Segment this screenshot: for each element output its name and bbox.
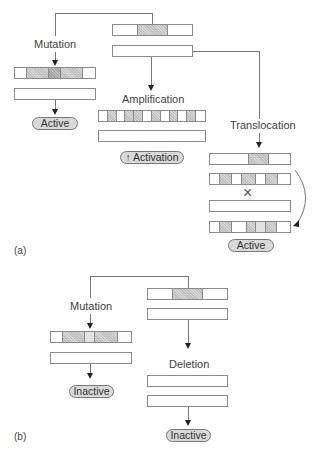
panel-b-label: (b) (14, 431, 26, 442)
source-chromosome-top (112, 24, 193, 36)
arrow-down-icon (52, 109, 58, 115)
connector-line (90, 276, 91, 298)
source-chromosome-bottom (147, 308, 228, 320)
amplified-chromosome (98, 110, 206, 122)
arrow-down-icon (185, 343, 191, 349)
result-activation-badge: ↑ Activation (120, 151, 184, 164)
curved-arrow-icon (293, 168, 313, 228)
source-chromosome-top (147, 288, 228, 300)
result-inactive-badge: Inactive (69, 385, 114, 398)
arrow-line (188, 320, 189, 343)
panel-a-label: (a) (14, 245, 26, 256)
result-active-badge: Active (32, 117, 78, 130)
connector-line (55, 13, 56, 36)
mutation-label: Mutation (70, 300, 112, 312)
deletion-label: Deletion (169, 358, 209, 370)
source-chromosome-bottom (112, 45, 193, 57)
arrow-down-icon (148, 85, 154, 91)
mutated-chromosome (14, 67, 96, 79)
translocation-label: Translocation (230, 119, 296, 131)
arrow-line (259, 133, 260, 142)
normal-chromosome (98, 130, 206, 142)
arrow-down-icon (87, 373, 93, 379)
deleted-chromosome (147, 375, 228, 387)
arrow-down-icon (185, 420, 191, 426)
normal-chromosome (50, 352, 132, 364)
result-active-badge: Active (228, 239, 274, 252)
arrow-down-icon (256, 142, 262, 148)
connector-line (193, 51, 260, 52)
amplification-label: Amplification (122, 93, 184, 105)
connector-line (55, 13, 152, 14)
translocation-chromosome-1 (209, 153, 291, 165)
connector-line (90, 276, 188, 277)
result-inactive-badge: Inactive (166, 429, 211, 442)
arrow-line (55, 100, 56, 109)
translocation-chromosome-3 (209, 200, 291, 212)
mutation-label: Mutation (34, 38, 76, 50)
arrow-line (90, 364, 91, 373)
normal-chromosome (147, 395, 228, 407)
connector-line (152, 13, 153, 24)
arrow-line (90, 314, 91, 323)
arrow-down-icon (87, 323, 93, 329)
arrow-line (188, 407, 189, 420)
normal-chromosome (14, 88, 96, 100)
arrow-down-icon (52, 60, 58, 66)
connector-line (188, 276, 189, 288)
mutated-chromosome (50, 331, 132, 343)
arrow-line (151, 57, 152, 85)
connector-line (259, 51, 260, 119)
translocated-chromosome (209, 221, 291, 233)
arrow-line (55, 52, 56, 60)
